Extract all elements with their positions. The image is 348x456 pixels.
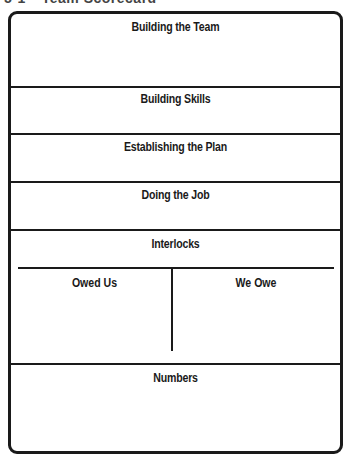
section-building-the-team: Building the Team <box>11 14 340 86</box>
section-heading: Building Skills <box>31 92 321 106</box>
section-building-skills: Building Skills <box>11 86 340 133</box>
team-scorecard: Building the Team Building Skills Establ… <box>8 11 343 454</box>
section-heading: Building the Team <box>31 20 321 34</box>
section-establishing-the-plan: Establishing the Plan <box>11 133 340 181</box>
section-heading: Numbers <box>31 371 321 385</box>
figure-title: Team Scorecard <box>42 0 157 6</box>
section-numbers: Numbers <box>11 363 340 451</box>
section-heading: Interlocks <box>31 237 321 251</box>
interlocks-column-divider <box>171 267 173 351</box>
figure-caption: 5-1Team Scorecard <box>4 0 157 6</box>
section-heading: Doing the Job <box>31 188 321 202</box>
interlocks-owed-us-heading: Owed Us <box>27 276 162 290</box>
section-doing-the-job: Doing the Job <box>11 181 340 229</box>
interlocks-divider <box>18 267 334 269</box>
section-heading: Establishing the Plan <box>31 140 321 154</box>
section-interlocks: Interlocks Owed Us We Owe <box>11 229 340 363</box>
figure-number: 5-1 <box>4 0 26 6</box>
interlocks-we-owe-heading: We Owe <box>183 276 329 290</box>
